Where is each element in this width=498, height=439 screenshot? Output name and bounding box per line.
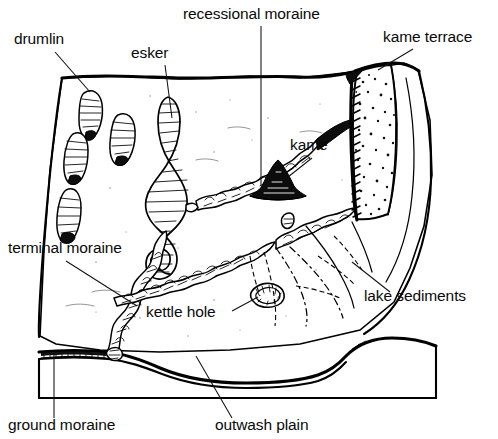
label-lake-sediments: lake sediments: [364, 287, 466, 304]
diagram-canvas: drumlin esker recessional moraine kame t…: [0, 0, 498, 439]
label-ground-moraine: ground moraine: [8, 416, 115, 433]
label-kame-terrace: kame terrace: [383, 28, 472, 45]
label-terminal-moraine: terminal moraine: [8, 239, 122, 256]
label-drumlin: drumlin: [14, 30, 64, 47]
block-top-back-edge: [62, 72, 353, 78]
kettle-hole: [251, 283, 285, 307]
label-esker: esker: [131, 44, 168, 61]
label-kame: kame: [290, 136, 328, 153]
glacial-landforms-figure: drumlin esker recessional moraine kame t…: [0, 0, 498, 439]
label-recessional-moraine: recessional moraine: [183, 5, 320, 22]
label-kettle-hole: kettle hole: [146, 303, 216, 320]
label-outwash-plain: outwash plain: [215, 416, 309, 433]
